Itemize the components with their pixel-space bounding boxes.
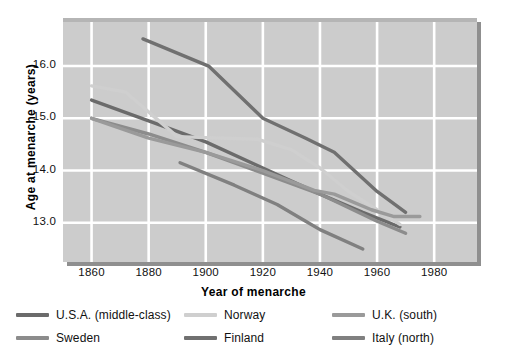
- plot-top-edge: [63, 18, 477, 22]
- legend-swatch-icon: [16, 336, 49, 340]
- legend-swatch-icon: [184, 313, 217, 317]
- legend-item-label: U.S.A. (middle-class): [56, 308, 171, 322]
- chart-figure: 1860188019001920194019601980 13.014.015.…: [0, 0, 507, 356]
- x-tick-label-1980: 1980: [404, 266, 464, 278]
- x-tick-label-1860: 1860: [62, 266, 122, 278]
- legend-swatch-icon: [332, 313, 365, 317]
- legend-item-label: Italy (north): [372, 331, 434, 345]
- legend-swatch-icon: [332, 336, 365, 340]
- x-tick-label-1940: 1940: [290, 266, 350, 278]
- x-tick-label-1920: 1920: [233, 266, 293, 278]
- legend-item-label: Norway: [224, 308, 265, 322]
- y-axis-title: Age at menarche (years): [24, 32, 38, 242]
- plot-svg: [63, 18, 477, 262]
- legend-item-sweden[interactable]: Sweden: [16, 331, 184, 345]
- legend-item-label: Sweden: [56, 331, 100, 345]
- chart-legend: U.S.A. (middle-class)NorwayU.K. (south)S…: [16, 303, 496, 349]
- plot-area: [63, 18, 477, 262]
- x-tick-label-1960: 1960: [347, 266, 407, 278]
- x-tick-label-1900: 1900: [176, 266, 236, 278]
- legend-swatch-icon: [184, 336, 217, 340]
- legend-item-norway[interactable]: Norway: [184, 308, 332, 322]
- legend-swatch-icon: [16, 313, 49, 317]
- series-lines: [92, 39, 420, 249]
- legend-item-label: Finland: [224, 331, 264, 345]
- legend-item-finland[interactable]: Finland: [184, 331, 332, 345]
- legend-item-italy-north[interactable]: Italy (north): [332, 331, 492, 345]
- x-tick-label-1880: 1880: [119, 266, 179, 278]
- legend-item-u-s-a-middle-class[interactable]: U.S.A. (middle-class): [16, 308, 184, 322]
- legend-item-u-k-south[interactable]: U.K. (south): [332, 308, 492, 322]
- x-axis-title: Year of menarche: [0, 285, 507, 299]
- legend-item-label: U.K. (south): [372, 308, 437, 322]
